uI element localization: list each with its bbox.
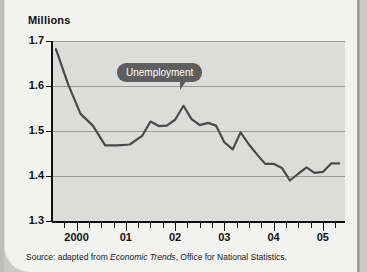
source-note: Source: adapted from Economic Trends, Of…: [26, 252, 287, 262]
x-tick-minor: [187, 223, 188, 228]
x-tick-minor: [212, 223, 213, 228]
data-line-svg: [4, 0, 359, 248]
x-tick-label: 04: [267, 231, 279, 243]
x-tick-minor: [298, 223, 299, 228]
x-tick-major: [126, 223, 127, 231]
x-tick-minor: [138, 223, 139, 228]
x-tick-minor: [64, 223, 65, 228]
x-tick-label: 03: [218, 231, 230, 243]
x-tick-minor: [249, 223, 250, 228]
source-suffix: , Office for National Statistics.: [176, 252, 287, 262]
x-tick-minor: [261, 223, 262, 228]
chart-card: Millions 1.7 1.6 1.5 1.4 1.3 20000102030…: [4, 0, 359, 272]
x-tick-minor: [163, 223, 164, 228]
x-tick-major: [175, 223, 176, 231]
x-tick-minor: [150, 223, 151, 228]
x-tick-label: 02: [169, 231, 181, 243]
x-tick-major: [77, 223, 78, 231]
x-tick-major: [224, 223, 225, 231]
x-tick-major: [274, 223, 275, 231]
x-tick-label: 05: [317, 231, 329, 243]
source-publication: Economic Trends: [110, 252, 176, 262]
x-tick-minor: [101, 223, 102, 228]
x-tick-minor: [335, 223, 336, 228]
plot-area: 1.7 1.6 1.5 1.4 1.3 20000102030405 Unemp…: [4, 0, 359, 248]
x-tick-minor: [200, 223, 201, 228]
x-tick-label: 01: [120, 231, 132, 243]
x-tick-minor: [286, 223, 287, 228]
x-tick-label: 2000: [64, 231, 88, 243]
callout-label: Unemployment: [126, 67, 193, 78]
source-prefix: Source: adapted from: [26, 252, 110, 262]
x-tick-major: [323, 223, 324, 231]
callout-tail: [180, 80, 187, 90]
x-tick-minor: [114, 223, 115, 228]
x-tick-minor: [237, 223, 238, 228]
x-tick-minor: [89, 223, 90, 228]
page-right-rule: [357, 0, 360, 272]
x-tick-minor: [311, 223, 312, 228]
callout-bubble: Unemployment: [117, 63, 202, 82]
